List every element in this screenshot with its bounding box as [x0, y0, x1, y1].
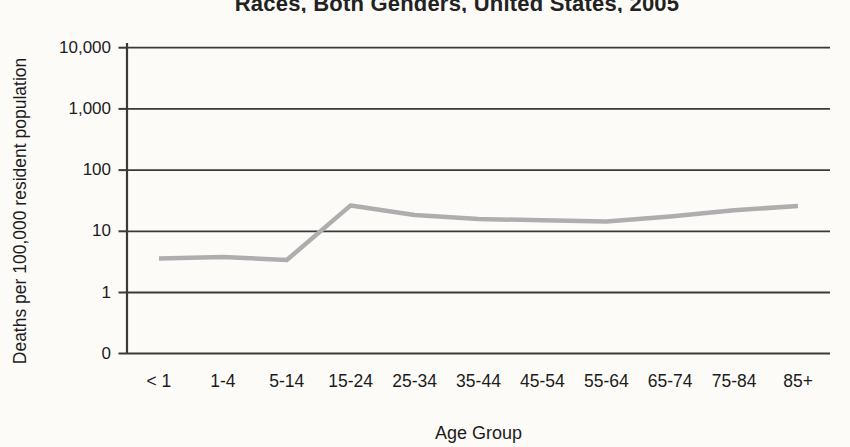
y-tick-label: 100	[0, 161, 111, 179]
y-tick-label: 10,000	[0, 39, 111, 57]
x-axis-title: Age Group	[127, 423, 830, 444]
y-tick-label: 10	[0, 222, 111, 240]
y-tick-label: 0	[0, 345, 111, 363]
x-category-label: 85+	[753, 372, 843, 391]
y-tick-label: 1,000	[0, 100, 111, 118]
y-tick-label: 1	[0, 284, 111, 302]
data-line	[159, 205, 798, 260]
